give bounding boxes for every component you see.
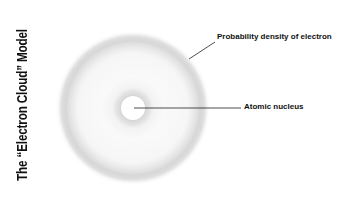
electron-cloud-diagram — [0, 0, 347, 201]
electron-cloud-label: Probability density of electron — [217, 32, 332, 41]
cloud-pointer-line — [189, 42, 215, 59]
nucleus-label: Atomic nucleus — [244, 102, 304, 111]
